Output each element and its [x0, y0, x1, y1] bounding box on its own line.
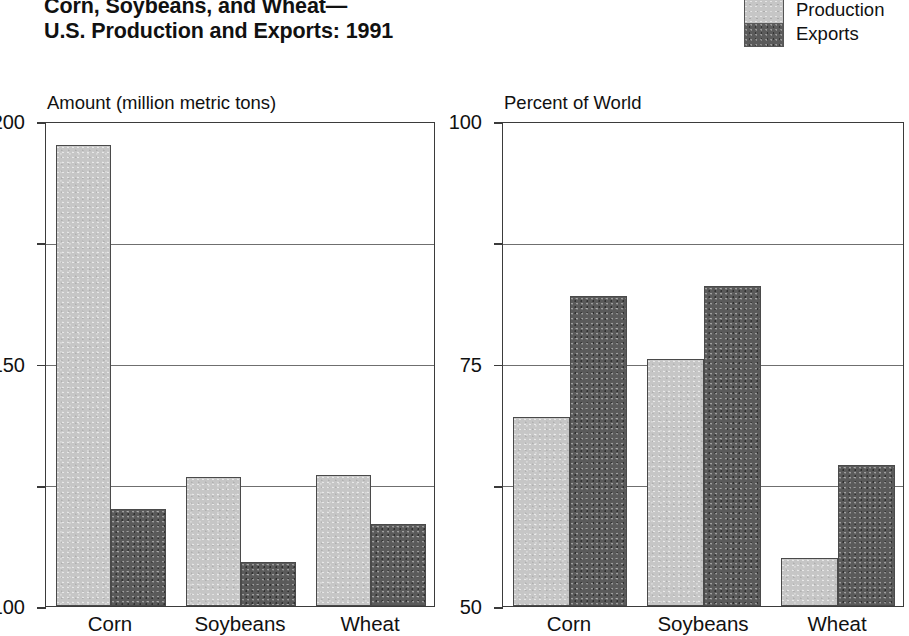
chart-legend: Production Exports [744, 0, 884, 47]
bar-wheat-exports [838, 465, 895, 606]
plot-area-percent: 0255075100 [502, 122, 904, 607]
chart-title: Corn, Soybeans, and Wheat— U.S. Producti… [44, 0, 664, 44]
legend-item-exports: Exports [796, 22, 884, 46]
x-axis-label-corn: Corn [547, 613, 591, 635]
y-axis-tick: 150 [37, 243, 46, 245]
legend-swatch-dark-icon [745, 23, 783, 46]
x-axis-label-wheat: Wheat [340, 613, 399, 635]
y-axis-tick: 100 [494, 122, 503, 124]
y-axis-label-150: 150 [0, 355, 25, 375]
y-axis-tick: 200 [37, 122, 46, 124]
bar-wheat-production [316, 475, 371, 606]
bar-soybeans-exports [704, 286, 761, 606]
y-axis-label-200: 200 [0, 112, 25, 132]
bar-wheat-production [781, 558, 838, 607]
y-axis-label-100: 100 [449, 112, 482, 132]
x-axis-label-corn: Corn [88, 613, 132, 635]
y-axis-tick: 50 [494, 365, 503, 367]
legend-item-production: Production [796, 0, 884, 22]
panel-subtitle-percent: Percent of World [504, 92, 641, 114]
bar-group-amount [46, 123, 434, 606]
x-axis-label-wheat: Wheat [807, 613, 866, 635]
y-axis-label-75: 75 [460, 355, 482, 375]
legend-swatch-group [744, 0, 784, 47]
plot-area-amount: 050100150200 [45, 122, 435, 607]
panel-subtitle-amount: Amount (million metric tons) [47, 92, 276, 114]
y-axis-tick: 25 [494, 486, 503, 488]
bar-wheat-exports [371, 524, 426, 606]
chart-title-line-1: Corn, Soybeans, and Wheat— [44, 0, 664, 19]
x-axis-label-soybeans: Soybeans [657, 613, 748, 635]
bar-corn-production [56, 145, 111, 606]
y-axis-tick: 50 [37, 486, 46, 488]
bar-corn-exports [111, 509, 166, 606]
y-axis-label-50: 50 [460, 597, 482, 617]
y-axis-label-100: 100 [0, 597, 25, 617]
y-axis-tick: 75 [494, 243, 503, 245]
y-axis-tick: 0 [37, 607, 46, 609]
bar-group-percent [503, 123, 903, 606]
bar-soybeans-exports [241, 562, 296, 606]
x-axis-label-soybeans: Soybeans [194, 613, 285, 635]
y-axis-tick: 100 [37, 365, 46, 367]
bar-soybeans-production [186, 477, 241, 606]
legend-swatch-light-icon [745, 0, 783, 23]
legend-label-group: Production Exports [796, 0, 884, 46]
bar-soybeans-production [647, 359, 704, 606]
bar-corn-production [513, 417, 570, 606]
y-axis-tick: 0 [494, 607, 503, 609]
chart-title-line-2: U.S. Production and Exports: 1991 [44, 19, 664, 44]
bar-corn-exports [570, 296, 627, 606]
